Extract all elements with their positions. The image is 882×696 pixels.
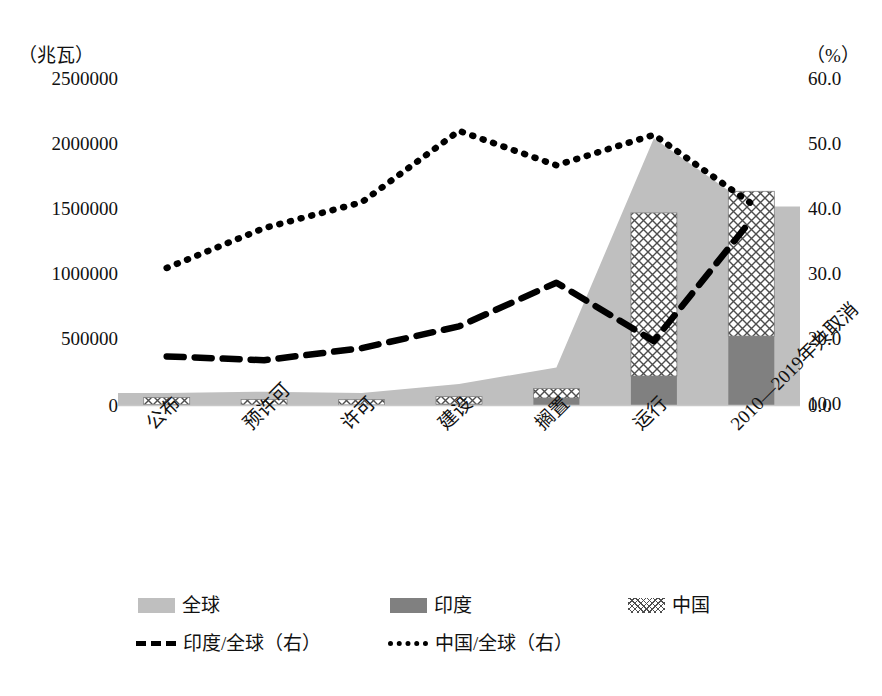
india-bar-swatch-icon [390, 598, 427, 613]
legend-item-india[interactable]: 印度 [390, 596, 472, 615]
legend-label-india: 印度 [434, 596, 472, 615]
bar-china [631, 213, 677, 376]
chart-figure: （兆瓦） （%） 2500000 2000000 1500000 1000000… [0, 0, 882, 696]
china-bar-swatch-icon [628, 598, 665, 613]
legend-item-global[interactable]: 全球 [138, 596, 220, 615]
legend-label-china: 中国 [672, 596, 710, 615]
legend-label-china-share: 中国/全球（右） [435, 634, 573, 653]
area-series-global [118, 138, 800, 405]
global-area-swatch-icon [138, 598, 175, 613]
dotted-line-swatch-icon [388, 641, 428, 646]
legend-item-india-share[interactable]: 印度/全球（右） [136, 634, 321, 653]
bar-china [728, 191, 774, 336]
dashed-line-swatch-icon [136, 641, 176, 646]
legend-label-global: 全球 [182, 596, 220, 615]
legend-item-china-share[interactable]: 中国/全球（右） [388, 634, 573, 653]
chart-legend: 全球 印度 中国 印度/全球（右） 中国/全球（右） [0, 586, 882, 666]
legend-item-china[interactable]: 中国 [628, 596, 710, 615]
legend-label-india-share: 印度/全球（右） [183, 634, 321, 653]
